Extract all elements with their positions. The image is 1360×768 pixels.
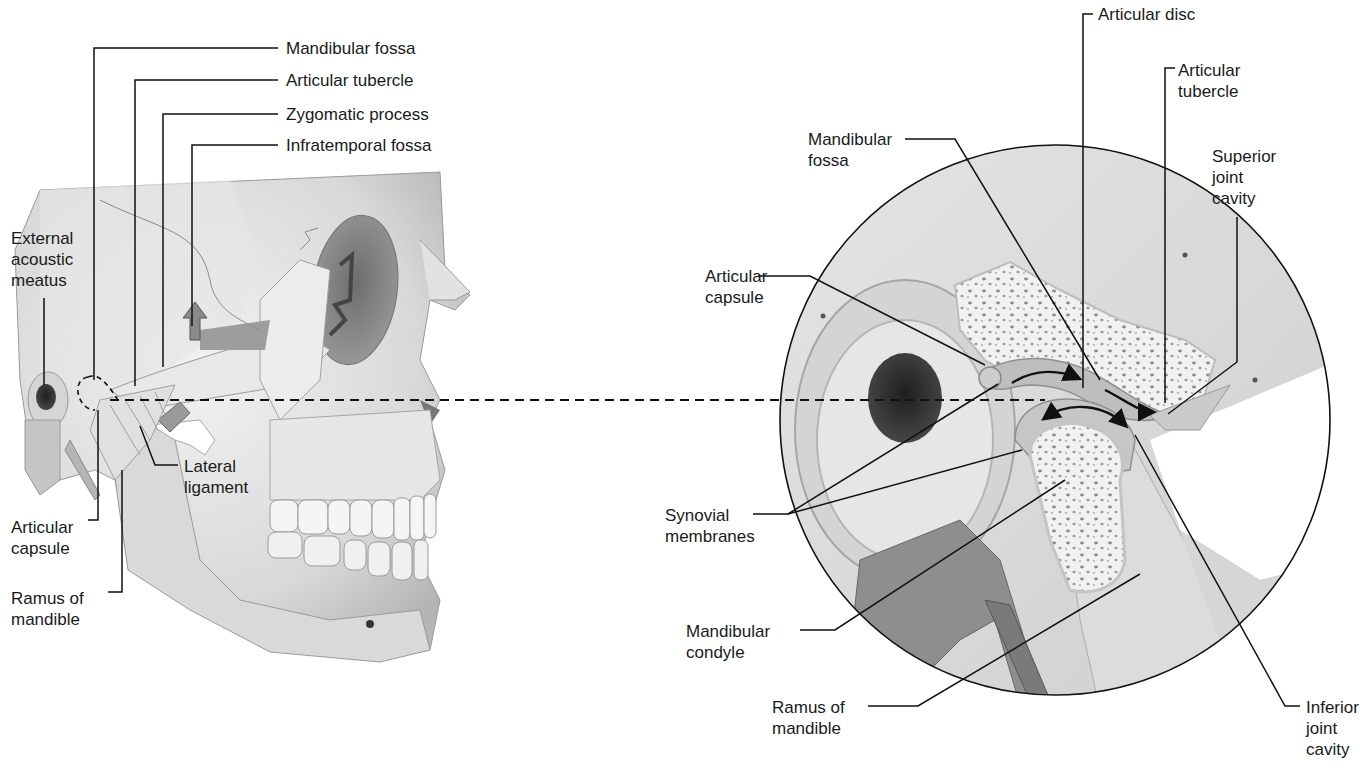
label-articular-tubercle: Articular tubercle [286,70,414,91]
label-synovial-membranes: Synovial membranes [665,505,755,547]
label-mandibular-fossa: Mandibular fossa [286,38,415,59]
label-inferior-joint-cavity: Inferior joint cavity [1306,697,1360,760]
label-zygomatic-process: Zygomatic process [286,104,429,125]
label-articular-disc: Articular disc [1098,4,1195,25]
tmj-figure: Mandibular fossa Articular tubercle Zygo… [0,0,1360,768]
label-articular-capsule-left: Articular capsule [11,517,73,559]
label-superior-joint-cavity: Superior joint cavity [1212,146,1276,209]
anatomy-illustration [0,0,1360,768]
label-mandibular-fossa-right: Mandibular fossa [808,129,892,171]
label-ramus-of-mandible-left: Ramus of mandible [11,588,84,630]
label-articular-tubercle-right: Articular tubercle [1178,60,1240,102]
label-external-acoustic-meatus: External acoustic meatus [11,228,73,291]
label-infratemporal-fossa: Infratemporal fossa [286,135,432,156]
label-mandibular-condyle: Mandibular condyle [686,621,770,663]
label-articular-capsule-right: Articular capsule [705,266,767,308]
tmj-sagittal-section [780,145,1340,712]
label-lateral-ligament: Lateral ligament [184,456,248,498]
label-ramus-of-mandible-right: Ramus of mandible [772,697,845,739]
